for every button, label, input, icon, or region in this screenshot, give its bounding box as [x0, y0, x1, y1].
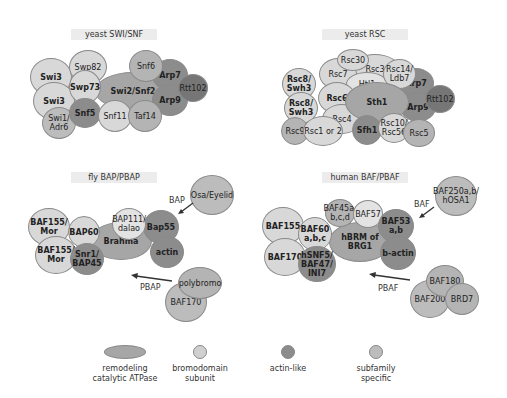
- panel-title-rsc: yeast RSC: [322, 29, 408, 40]
- subunit-rsc5: Rsc5: [403, 119, 435, 147]
- subunit-rtt102: Rtt102: [178, 74, 208, 102]
- subunit-bap111-dalao: BAP111/ dalao: [112, 208, 146, 240]
- subunit-brd7: BRD7: [445, 283, 479, 315]
- bromodomain-circle-icon: [193, 345, 207, 359]
- panel-title-fly: fly BAP/PBAP: [71, 172, 157, 183]
- legend-label-atpase: remodeling catalytic ATPase: [80, 364, 170, 384]
- subunit-baf250-hosa1: BAF250a,b/ hOSA1: [435, 176, 477, 216]
- legend-label-actin-like: actin-like: [258, 364, 318, 374]
- subunit-snf5: Snf5: [69, 98, 101, 128]
- arrow-label-pbaf: PBAF: [378, 284, 398, 293]
- legend-label-subfamily: subfamily specific: [346, 364, 406, 384]
- legend-item-subfamily: subfamily specific: [346, 345, 406, 384]
- subunit-rsc30: Rsc30: [337, 49, 369, 71]
- subunit-b-actin: b-actin: [380, 236, 416, 270]
- subunit-polybromo: polybromo: [178, 267, 222, 299]
- subunit-taf14: Taf14: [128, 100, 162, 132]
- panel-title-swisnf: yeast SWI/SNF: [71, 29, 157, 40]
- subunit-osa-eyelid: Osa/Eyelid: [190, 175, 234, 215]
- subunit-snr1-bap45: Snr1/ BAP45: [70, 243, 104, 275]
- atpase-ellipse-icon: [104, 345, 146, 359]
- legend-item-bromodomain: bromodomain subunit: [165, 345, 235, 384]
- subunit-rtt102-rsc: Rtt102: [425, 85, 455, 113]
- subunit-rsc1-or-2: Rsc1 or 2: [303, 116, 343, 146]
- legend-item-atpase: remodeling catalytic ATPase: [80, 345, 170, 384]
- legend-item-actin-like: actin-like: [258, 345, 318, 374]
- subunit-baf45-abcd: BAF45a, b,c,d: [325, 199, 355, 227]
- actin-like-circle-icon: [281, 345, 295, 359]
- subunit-actin: actin: [150, 236, 184, 268]
- arrow-baf-icon: [417, 205, 437, 221]
- arrow-pbap-icon: [130, 273, 174, 283]
- legend-label-bromodomain: bromodomain subunit: [165, 364, 235, 384]
- subfamily-circle-icon: [369, 345, 383, 359]
- subunit-snf6: Snf6: [129, 50, 163, 82]
- arrow-label-pbap: PBAP: [140, 283, 161, 292]
- subunit-snf11: Snf11: [98, 100, 132, 132]
- panel-title-human: human BAF/PBAF: [322, 172, 408, 183]
- subunit-hsnf5-baf47-ini7: hSNF5/ BAF47/ INI7: [298, 246, 336, 282]
- arrow-pbaf-icon: [368, 272, 412, 282]
- arrow-bap-icon: [176, 201, 196, 217]
